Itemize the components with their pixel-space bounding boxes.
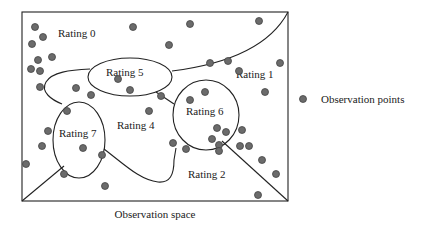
observation-point	[99, 152, 106, 159]
observation-point	[127, 87, 134, 94]
observation-point	[45, 128, 52, 135]
diagram-caption: Observation space	[115, 208, 196, 220]
observation-point	[216, 148, 223, 155]
observation-point	[40, 34, 47, 41]
observation-point	[246, 143, 253, 150]
observation-point	[64, 108, 71, 115]
observation-point	[102, 183, 109, 190]
observation-point	[115, 76, 122, 83]
observation-point	[187, 21, 194, 28]
observation-point	[225, 58, 232, 65]
observation-point	[35, 57, 42, 64]
observation-point	[255, 192, 262, 199]
observation-point	[262, 89, 269, 96]
observation-point	[37, 84, 44, 91]
boundary-rating0-rating4	[44, 69, 90, 104]
observation-point	[237, 143, 244, 150]
region-rating-7	[53, 102, 105, 178]
observation-point	[207, 60, 214, 67]
boundary-rating4-rating2	[104, 148, 176, 182]
observation-point	[273, 171, 280, 178]
legend-marker-icon	[300, 96, 307, 103]
observation-point	[39, 143, 46, 150]
observation-point	[187, 97, 194, 104]
observation-point	[202, 89, 209, 96]
observation-point	[73, 85, 80, 92]
observation-point	[88, 92, 95, 99]
diagram-canvas: Rating 0Rating 5Rating 1Rating 7Rating 4…	[0, 0, 422, 230]
legend-label: Observation points	[321, 93, 404, 105]
observation-point	[29, 41, 36, 48]
observation-point	[277, 60, 284, 67]
label-rating-5: Rating 5	[106, 66, 144, 78]
observation-point	[209, 136, 216, 143]
observation-point	[259, 157, 266, 164]
boundary-bottom-left	[22, 166, 64, 201]
label-rating-0: Rating 0	[58, 27, 96, 39]
observation-point	[214, 125, 221, 132]
observation-point	[236, 68, 243, 75]
label-rating-7: Rating 7	[59, 127, 97, 139]
observation-point	[239, 127, 246, 134]
observation-point	[146, 108, 153, 115]
observation-point	[28, 66, 35, 73]
observation-point	[32, 24, 39, 31]
observation-point	[158, 93, 165, 100]
observation-point	[130, 24, 137, 31]
observation-point	[49, 54, 56, 61]
observation-point	[37, 68, 44, 75]
observation-point	[166, 42, 173, 49]
label-rating-2: Rating 2	[188, 168, 226, 180]
observation-point	[183, 146, 190, 153]
observation-point	[256, 18, 263, 25]
observation-point	[223, 129, 230, 136]
observation-point	[23, 161, 30, 168]
label-rating-4: Rating 4	[117, 119, 155, 131]
label-rating-6: Rating 6	[186, 105, 224, 117]
observation-point	[80, 145, 87, 152]
observation-point	[61, 171, 68, 178]
observation-point	[170, 140, 177, 147]
